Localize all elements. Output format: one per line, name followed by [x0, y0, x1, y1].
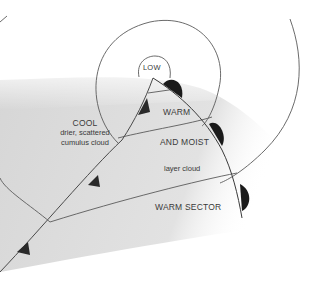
isobar-tick	[0, 16, 7, 22]
cool-title: COOL	[40, 118, 130, 128]
weather-front-diagram: LOW COOL drier, scattered cumulus cloud …	[0, 0, 315, 289]
warm-sector-label: WARM SECTOR	[155, 202, 221, 212]
cool-description-line2: cumulus cloud	[30, 138, 140, 147]
and-moist-label: AND MOIST	[160, 137, 209, 147]
shaded-region	[0, 60, 285, 272]
cool-description-line1: drier, scattered	[30, 128, 140, 137]
low-label: LOW	[143, 63, 161, 72]
warm-label: WARM	[163, 107, 190, 117]
layer-cloud-label: layer cloud	[164, 164, 200, 173]
